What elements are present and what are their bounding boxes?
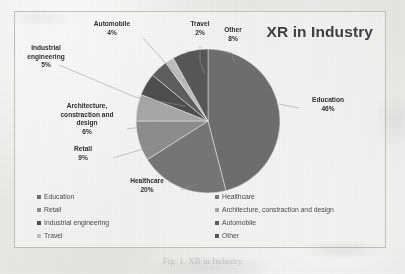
data-label-architecture-name: Architecture, constraction and design bbox=[60, 102, 113, 126]
data-label-architecture: Architecture, constraction and design 6% bbox=[51, 102, 123, 136]
legend-item-label: Healthcare bbox=[222, 193, 255, 200]
data-label-architecture-pct: 6% bbox=[51, 128, 123, 137]
legend-item-healthcare[interactable]: Healthcare bbox=[215, 190, 334, 203]
legend-item-industrial-engineering[interactable]: Industrial engineering bbox=[37, 216, 109, 229]
data-label-other: Other 8% bbox=[211, 26, 255, 43]
data-label-industrial-engineering-name: Industrial engineering bbox=[27, 44, 64, 60]
legend-swatch-icon bbox=[37, 195, 41, 199]
legend-swatch-icon bbox=[37, 234, 41, 238]
legend-item-label: Other bbox=[222, 232, 239, 239]
pie-slices bbox=[136, 49, 280, 193]
legend-item-retail[interactable]: Retail bbox=[37, 203, 109, 216]
data-label-travel-name: Travel bbox=[190, 20, 209, 27]
data-label-automobile-pct: 4% bbox=[77, 29, 147, 38]
legend-item-automobile[interactable]: Automobile bbox=[215, 216, 334, 229]
legend-item-label: Education bbox=[44, 193, 74, 200]
legend-item-label: Architecture, constraction and design bbox=[222, 206, 334, 213]
legend-item-architecture-constraction-and-design[interactable]: Architecture, constraction and design bbox=[215, 203, 334, 216]
legend-swatch-icon bbox=[37, 221, 41, 225]
data-label-education-name: Education bbox=[312, 96, 344, 103]
legend-item-label: Industrial engineering bbox=[44, 219, 109, 226]
data-label-industrial-engineering-pct: 5% bbox=[16, 61, 76, 70]
legend-column-right: HealthcareArchitecture, constraction and… bbox=[215, 190, 334, 242]
data-label-other-name: Other bbox=[224, 26, 242, 33]
data-label-other-pct: 8% bbox=[211, 35, 255, 44]
chart-frame: XR in Industry Automobile 4% Travel 2% bbox=[14, 11, 386, 248]
data-label-automobile: Automobile 4% bbox=[77, 20, 147, 37]
data-label-education-pct: 46% bbox=[299, 105, 357, 114]
data-label-retail: Retail 9% bbox=[59, 145, 107, 162]
legend-swatch-icon bbox=[37, 208, 41, 212]
legend-item-label: Retail bbox=[44, 206, 61, 213]
legend-swatch-icon bbox=[215, 234, 219, 238]
leader-education bbox=[279, 104, 299, 108]
legend-item-education[interactable]: Education bbox=[37, 190, 109, 203]
figure-caption: Fig. 1. XR in Industry bbox=[0, 256, 405, 266]
data-label-retail-pct: 9% bbox=[59, 154, 107, 163]
data-label-retail-name: Retail bbox=[74, 145, 92, 152]
data-label-industrial-engineering: Industrial engineering 5% bbox=[16, 44, 76, 70]
chart-legend: EducationRetailIndustrial engineeringTra… bbox=[37, 190, 377, 242]
data-label-education: Education 46% bbox=[299, 96, 357, 113]
legend-item-label: Automobile bbox=[222, 219, 256, 226]
data-label-automobile-name: Automobile bbox=[94, 20, 130, 27]
legend-swatch-icon bbox=[215, 208, 219, 212]
legend-column-left: EducationRetailIndustrial engineeringTra… bbox=[37, 190, 109, 242]
legend-item-label: Travel bbox=[44, 232, 63, 239]
data-label-healthcare-name: Healthcare bbox=[130, 177, 164, 184]
legend-swatch-icon bbox=[215, 195, 219, 199]
legend-item-other[interactable]: Other bbox=[215, 229, 334, 242]
legend-swatch-icon bbox=[215, 221, 219, 225]
legend-item-travel[interactable]: Travel bbox=[37, 229, 109, 242]
